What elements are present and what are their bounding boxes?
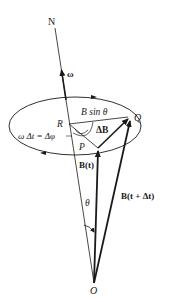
label-b-t: B(t) xyxy=(79,160,94,170)
axis-line xyxy=(55,28,94,283)
label-b-sin-theta: B sin θ xyxy=(81,107,108,117)
b-t-vector xyxy=(94,151,98,283)
label-omega-dt: ω Δt = Δφ xyxy=(18,131,55,141)
label-omega: ω xyxy=(67,69,74,79)
label-o: O xyxy=(90,285,97,296)
omega-vector xyxy=(62,70,67,100)
delta-phi-arc xyxy=(75,129,88,134)
label-n: N xyxy=(48,16,55,27)
label-p: P xyxy=(78,142,85,152)
label-b-t-dt: B(t + Δt) xyxy=(121,191,154,201)
b-sin-theta-line xyxy=(69,117,128,124)
label-r: R xyxy=(56,119,63,129)
b-t-dt-vector xyxy=(94,121,130,283)
label-q: Q xyxy=(134,112,142,123)
label-delta-b: ΔB xyxy=(96,125,109,135)
precession-diagram: N ω B sin θ Q R ΔB ω Δt = Δφ P B(t) B(t … xyxy=(0,0,169,302)
label-theta: θ xyxy=(85,198,90,208)
